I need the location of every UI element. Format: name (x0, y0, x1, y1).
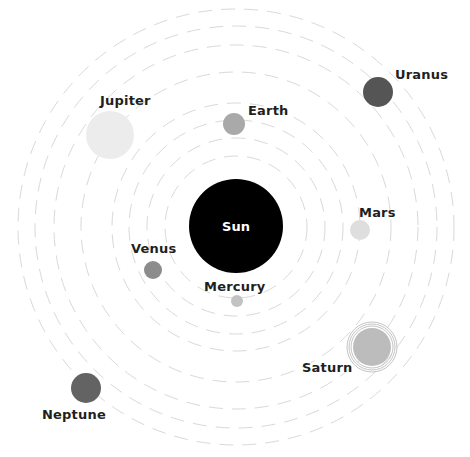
planet-venus (144, 261, 162, 279)
solar-system-diagram: Sun MercuryVenusEarthMarsJupiterSaturnUr… (0, 0, 470, 457)
planet-saturn (353, 328, 391, 366)
planet-mars (350, 220, 370, 240)
mars-label: Mars (359, 205, 396, 220)
planet-neptune (71, 373, 101, 403)
venus-label: Venus (131, 241, 176, 256)
planet-earth (223, 113, 245, 135)
planet-mercury (231, 295, 243, 307)
earth-label: Earth (248, 103, 289, 118)
neptune-label: Neptune (42, 407, 106, 422)
planet-uranus (363, 77, 393, 107)
sun-label: Sun (222, 219, 250, 234)
uranus-label: Uranus (395, 67, 448, 82)
jupiter-label: Jupiter (100, 93, 151, 108)
saturn-label: Saturn (302, 360, 352, 375)
planet-jupiter (86, 111, 134, 159)
celestial-bodies (71, 77, 397, 403)
mercury-label: Mercury (204, 279, 265, 294)
